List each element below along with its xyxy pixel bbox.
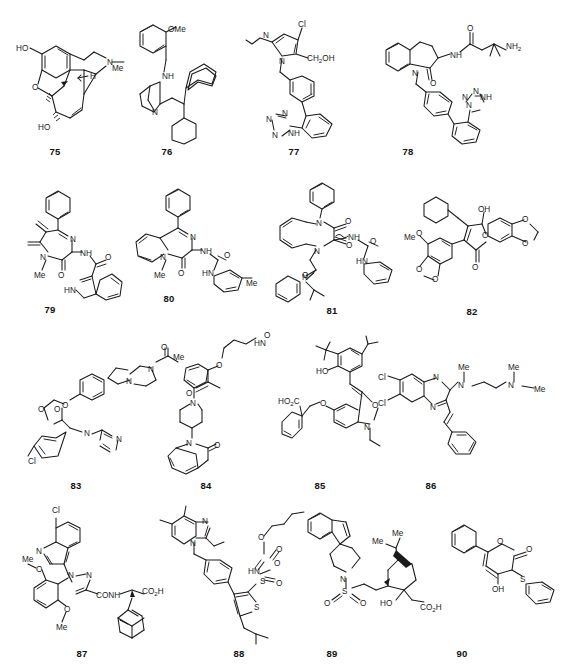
atom-label-O-ring: O — [497, 537, 503, 546]
atom-label-Cl2: Cl — [378, 399, 386, 408]
caption-82: 82 — [462, 306, 482, 317]
structure-89: N S O O Me Me HO CO2H — [300, 508, 460, 648]
atom-label-CO2H: CO2H — [420, 603, 442, 613]
atom-label-O2: O — [430, 79, 436, 88]
atom-label-O-dio1: O — [38, 405, 44, 414]
atom-label-Me1: Me — [458, 363, 470, 372]
atom-label-N1: N — [263, 31, 269, 40]
atom-label-O-md2: O — [416, 265, 422, 274]
atom-label-O3: O — [346, 241, 352, 250]
atom-label-O-dio2: O — [54, 405, 60, 414]
atom-label-N1: N — [190, 233, 196, 242]
atom-label-N4: N — [266, 115, 272, 124]
structure-78: O NH NH2 N O N N N NH — [376, 22, 532, 146]
atom-label-Nt3: N — [462, 93, 468, 102]
atom-label-Me1: Me — [392, 529, 404, 538]
atom-label-Me2: Me — [246, 279, 258, 288]
atom-label-N2: N — [430, 403, 436, 412]
atom-label-O-md1: O — [432, 275, 438, 284]
atom-label-S-thiophene: S — [254, 603, 260, 612]
structure-81: N O NH O O HN N N O — [272, 178, 418, 306]
atom-label-N-quin: N — [186, 439, 192, 448]
atom-label-N-pip: N — [190, 399, 196, 408]
caption-79: 79 — [40, 304, 60, 315]
atom-label-Me: Me — [404, 233, 416, 242]
atom-label-N3: N — [282, 109, 288, 118]
atom-label-O-lactam: O — [214, 441, 220, 450]
atom-label-N1: N — [148, 365, 154, 374]
atom-label-O-s2: O — [360, 599, 366, 608]
caption-89: 89 — [322, 648, 342, 659]
atom-label-Me2: Me — [508, 363, 520, 372]
atom-label-Me2: Me — [372, 537, 384, 546]
atom-label-NH: NH — [288, 129, 300, 138]
atom-label-HO-2: HO — [38, 123, 50, 132]
atom-label-N-quinoline: N — [36, 547, 42, 556]
caption-83: 83 — [66, 480, 86, 491]
structure-86: Cl Cl N N N Me N Me Me — [378, 342, 556, 478]
atom-label-O2: O — [58, 271, 64, 280]
atom-label-N-ring: N — [412, 69, 418, 78]
atom-label-N1: N — [70, 235, 76, 244]
caption-85: 85 — [310, 480, 330, 491]
caption-75: 75 — [45, 146, 65, 157]
atom-label-N1: N — [316, 219, 322, 228]
atom-label-O1: O — [224, 251, 230, 260]
atom-label-O-s1: O — [274, 559, 280, 568]
atom-label-OH: OH — [478, 205, 490, 214]
atom-label-O2: O — [370, 237, 376, 246]
atom-label-Me1: Me — [22, 555, 34, 564]
atom-label-N1-pyrazole: N — [68, 571, 74, 580]
atom-label-O-carbonyl: O — [186, 389, 192, 398]
atom-label-Nt2: N — [473, 87, 479, 96]
atom-label-O1: O — [36, 565, 42, 574]
atom-label-N-imid2: N — [116, 435, 122, 444]
atom-label-O-ring: O — [482, 231, 488, 240]
structure-77: Cl N N CH2OH N N N NH — [246, 18, 364, 146]
structure-76: OMe NH N — [126, 22, 238, 144]
atom-label-O-s1: O — [324, 599, 330, 608]
atom-label-O-keto: O — [472, 263, 478, 272]
atom-label-O-dx2: O — [522, 239, 528, 248]
structure-84: HN O O O N N O — [168, 336, 298, 478]
atom-label-O4: O — [302, 271, 308, 280]
atom-label-S: S — [342, 587, 348, 596]
atom-label-Me: Me — [112, 64, 124, 73]
atom-label-OH: OH — [492, 585, 504, 594]
atom-label-HO2C: HO2C — [278, 397, 300, 407]
atom-label-O-dx1: O — [522, 215, 528, 224]
atom-label-O-amide: O — [264, 331, 270, 340]
atom-label-Me2: Me — [56, 623, 68, 632]
atom-label-N-imid: N — [84, 429, 90, 438]
structure-82: OH O O O O Me O O O — [402, 188, 562, 304]
structure-83: Me O N N O O O N N Cl — [28, 340, 180, 478]
caption-81: 81 — [322, 305, 342, 316]
atom-label-N: N — [152, 108, 158, 117]
atom-label-N5: N — [314, 247, 320, 256]
atom-label-N1: N — [202, 517, 208, 526]
caption-77: 77 — [284, 146, 304, 157]
atom-label-N2: N — [126, 377, 132, 386]
atom-label-CH2OH: CH2OH — [307, 54, 335, 64]
atom-label-O: O — [32, 83, 38, 92]
atom-label-Cl: Cl — [28, 457, 36, 466]
atom-label-HN: HN — [202, 269, 214, 278]
atom-label-O-s2: O — [276, 579, 282, 588]
atom-label-O-ether: O — [320, 399, 326, 408]
atom-label-Me: Me — [34, 271, 46, 280]
caption-90: 90 — [452, 648, 472, 659]
atom-label-OMe: OMe — [168, 25, 186, 34]
structure-88: N N HN O O S O O S — [152, 504, 318, 646]
caption-86: 86 — [421, 480, 441, 491]
structure-75: HO O N Me H HO — [8, 26, 128, 144]
structure-79: N NH O O N Me HN — [10, 180, 130, 302]
atom-label-N2-pyrazole: N — [86, 571, 92, 580]
caption-76: 76 — [157, 146, 177, 157]
atom-label-N3: N — [458, 381, 464, 390]
atom-label-NHt: NH — [480, 93, 492, 102]
atom-label-N1: N — [433, 373, 439, 382]
atom-label-N4: N — [508, 381, 514, 390]
atom-label-HN: HN — [248, 567, 260, 576]
structure-90: O O OH S — [440, 512, 560, 644]
atom-label-Me3: Me — [534, 385, 546, 394]
